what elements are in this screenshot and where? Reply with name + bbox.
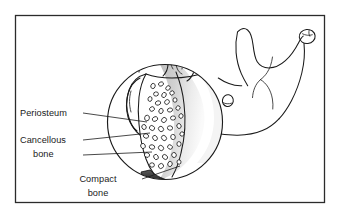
label-compact-bone-line1: Compact (79, 174, 117, 184)
anatomy-figure: Periosteum Cancellous bone Compact bone (0, 0, 340, 220)
label-cancellous-bone-line1: Cancellous (20, 135, 66, 145)
label-compact-bone-line2: bone (88, 188, 109, 198)
label-periosteum: Periosteum (20, 108, 67, 118)
label-cancellous-bone-line2: bone (33, 149, 54, 159)
diagram-canvas: Periosteum Cancellous bone Compact bone (0, 0, 340, 220)
